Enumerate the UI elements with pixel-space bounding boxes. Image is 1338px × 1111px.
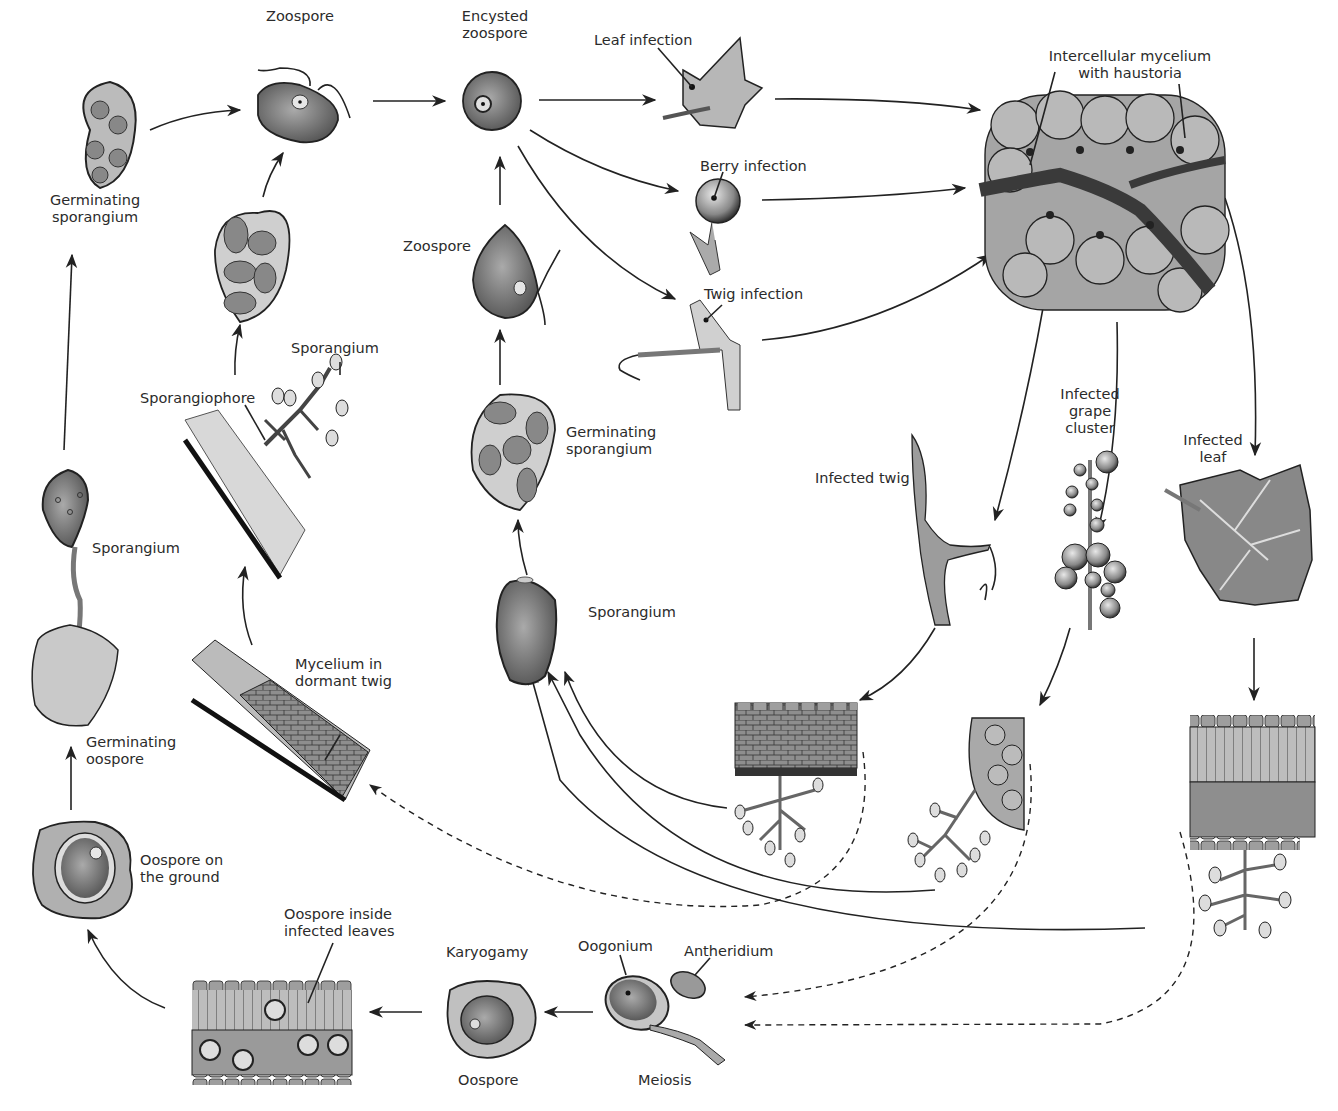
label-meiosis: Meiosis	[638, 1072, 691, 1089]
zoospore-top-illustration	[258, 68, 350, 142]
label-germinating-sporangium-left: Germinating sporangium	[40, 192, 150, 226]
label-sporangium-upper: Sporangium	[291, 340, 379, 357]
berry-infection-illustration	[690, 172, 740, 275]
label-intercellular-mycelium: Intercellular mycelium with haustoria	[1040, 48, 1220, 82]
intercellular-mycelium-illustration	[980, 72, 1229, 312]
twig-section-illustration	[735, 703, 857, 867]
label-berry-infection: Berry infection	[700, 158, 807, 175]
label-infected-twig: Infected twig	[815, 470, 910, 487]
label-encysted-zoospore: Encysted zoospore	[450, 8, 540, 42]
label-infected-grape-cluster: Infected grape cluster	[1055, 386, 1125, 437]
label-zoospore-mid: Zoospore	[403, 238, 471, 255]
infected-leaf-illustration	[1165, 465, 1312, 605]
infected-grape-cluster-illustration	[1055, 451, 1126, 630]
zoospore-mid-illustration	[473, 225, 560, 325]
label-oospore-on-ground: Oospore on the ground	[140, 852, 223, 886]
germinating-sporangium-pear-illustration	[215, 211, 290, 322]
label-infected-leaf: Infected leaf	[1178, 432, 1248, 466]
label-twig-infection: Twig infection	[704, 286, 803, 303]
label-oospore-bottom: Oospore	[458, 1072, 518, 1089]
label-karyogamy: Karyogamy	[446, 944, 528, 961]
germinating-sporangium-left-illustration	[83, 82, 135, 188]
oospore-leaves-section-illustration	[192, 980, 352, 1085]
oogonium-antheridium-illustration	[598, 967, 725, 1065]
label-zoospore-top: Zoospore	[260, 8, 340, 25]
oospore-ground-illustration	[33, 822, 132, 919]
leaf-infection-illustration	[658, 38, 762, 128]
label-mycelium-dormant-twig: Mycelium in dormant twig	[295, 656, 392, 690]
twig-infection-illustration	[619, 300, 740, 410]
germinating-sporangium-mid-illustration	[472, 394, 555, 510]
label-germinating-oospore: Germinating oospore	[86, 734, 176, 768]
germinating-oospore-illustration	[32, 470, 118, 726]
label-leaf-infection: Leaf infection	[594, 32, 692, 49]
sporangium-center-illustration	[497, 577, 556, 684]
label-germinating-sporangium-mid: Germinating sporangium	[566, 424, 656, 458]
karyogamy-oospore-illustration	[448, 981, 536, 1058]
label-sporangium-center: Sporangium	[588, 604, 676, 621]
disease-cycle-diagram	[0, 0, 1338, 1111]
label-sporangiophore: Sporangiophore	[140, 390, 255, 407]
label-antheridium: Antheridium	[684, 943, 773, 960]
infected-twig-illustration	[912, 435, 996, 625]
sporangiophore-illustration	[185, 354, 348, 578]
berry-section-illustration	[908, 718, 1024, 882]
label-sporangium-left: Sporangium	[92, 540, 180, 557]
leaf-section-illustration	[1190, 715, 1315, 938]
encysted-zoospore-illustration	[463, 72, 521, 130]
label-oogonium: Oogonium	[578, 938, 653, 955]
label-oospore-inside-leaves: Oospore inside infected leaves	[284, 906, 395, 940]
